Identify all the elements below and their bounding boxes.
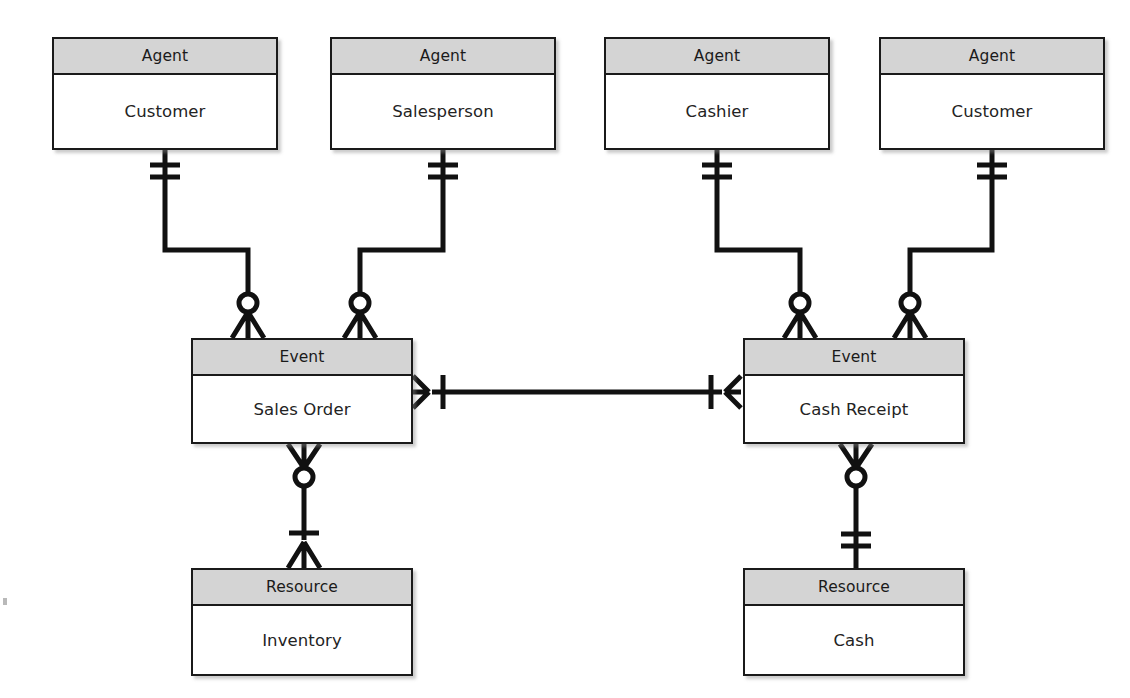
entity-name-label: Inventory bbox=[193, 606, 411, 674]
entity-name-label: Customer bbox=[881, 75, 1103, 148]
entity-name-label: Cash Receipt bbox=[745, 376, 963, 442]
entity-category-label: Event bbox=[193, 340, 411, 376]
entity-resource-cash[interactable]: Resource Cash bbox=[743, 568, 965, 676]
entity-name-label: Cashier bbox=[606, 75, 828, 148]
entity-name-label: Salesperson bbox=[332, 75, 554, 148]
entity-agent-salesperson[interactable]: Agent Salesperson bbox=[330, 37, 556, 150]
relationship-cash-receipt-cash[interactable] bbox=[840, 444, 872, 568]
entity-agent-customer-cash[interactable]: Agent Customer bbox=[879, 37, 1105, 150]
relationship-customer-sales-order[interactable] bbox=[150, 150, 264, 338]
entity-category-label: Agent bbox=[332, 39, 554, 75]
entity-name-label: Customer bbox=[54, 75, 276, 148]
entity-event-sales-order[interactable]: Event Sales Order bbox=[191, 338, 413, 444]
entity-agent-customer-sales[interactable]: Agent Customer bbox=[52, 37, 278, 150]
entity-name-label: Cash bbox=[745, 606, 963, 674]
relationship-cashier-cash-receipt[interactable] bbox=[702, 150, 816, 338]
entity-agent-cashier[interactable]: Agent Cashier bbox=[604, 37, 830, 150]
entity-category-label: Agent bbox=[606, 39, 828, 75]
relationship-customer-cash-receipt[interactable] bbox=[894, 150, 1007, 338]
page-edge-artifact bbox=[3, 598, 7, 605]
relationship-salesperson-sales-order[interactable] bbox=[344, 150, 458, 338]
entity-category-label: Resource bbox=[193, 570, 411, 606]
entity-category-label: Resource bbox=[745, 570, 963, 606]
entity-category-label: Event bbox=[745, 340, 963, 376]
relationship-sales-order-cash-receipt[interactable] bbox=[413, 375, 741, 409]
entity-category-label: Agent bbox=[881, 39, 1103, 75]
entity-event-cash-receipt[interactable]: Event Cash Receipt bbox=[743, 338, 965, 444]
rea-diagram-canvas: Agent Customer Agent Salesperson Agent C… bbox=[0, 0, 1130, 698]
entity-category-label: Agent bbox=[54, 39, 276, 75]
entity-name-label: Sales Order bbox=[193, 376, 411, 442]
relationship-sales-order-inventory[interactable] bbox=[288, 444, 320, 568]
entity-resource-inventory[interactable]: Resource Inventory bbox=[191, 568, 413, 676]
